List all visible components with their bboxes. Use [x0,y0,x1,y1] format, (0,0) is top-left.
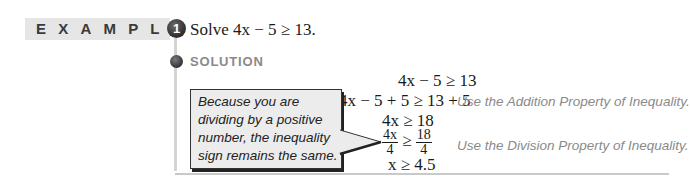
fraction-right: 18 4 [416,128,432,157]
solution-label: SOLUTION [190,54,264,69]
step-4: 4x 4 ≥ 18 4 [382,128,432,157]
step-2-note: Use the Addition Property of Inequality. [457,94,690,109]
step-4-note: Use the Division Property of Inequality. [457,138,689,153]
callout-text: Because you are dividing by a positive n… [198,93,338,165]
step-1: 4x − 5 ≥ 13 [398,71,476,91]
problem-statement: Solve 4x − 5 ≥ 13. [190,20,316,40]
step-2: 4x − 5 + 5 ≥ 13 + 5 [339,91,471,111]
solution-bullet-icon [170,55,183,68]
step-5: x ≥ 4.5 [388,155,436,175]
bottom-rule [175,173,669,175]
example-number-badge: 1 [167,19,186,38]
